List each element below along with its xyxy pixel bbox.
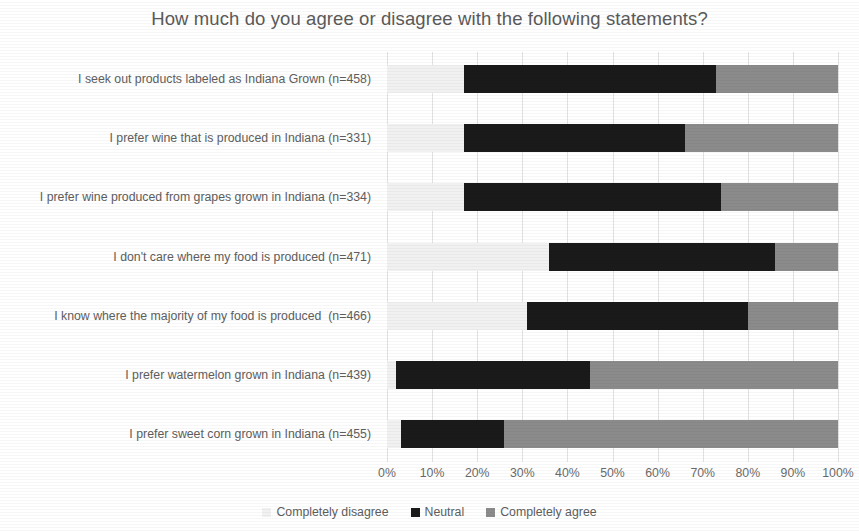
legend-item[interactable]: Neutral xyxy=(411,505,465,519)
bar-segment[interactable] xyxy=(721,183,838,211)
bar-row[interactable] xyxy=(387,361,838,389)
chart-title: How much do you agree or disagree with t… xyxy=(0,8,859,30)
bar-segment[interactable] xyxy=(590,361,838,389)
bar-segment[interactable] xyxy=(387,420,401,448)
bar-row[interactable] xyxy=(387,183,838,211)
bar-segment[interactable] xyxy=(387,124,464,152)
legend-swatch-icon xyxy=(486,508,495,517)
bar-segment[interactable] xyxy=(464,183,721,211)
bar-row[interactable] xyxy=(387,65,838,93)
category-label: I don't care where my food is produced (… xyxy=(113,249,371,265)
bar-segment[interactable] xyxy=(396,361,590,389)
x-axis-ticks: 0%10%20%30%40%50%60%70%80%90%100% xyxy=(387,466,838,486)
bar-segment[interactable] xyxy=(401,420,505,448)
category-label: I prefer watermelon grown in Indiana (n=… xyxy=(125,367,371,383)
bar-row[interactable] xyxy=(387,124,838,152)
category-label: I prefer sweet corn grown in Indiana (n=… xyxy=(129,426,371,442)
bar-segment[interactable] xyxy=(464,124,685,152)
stacked-bar-chart: How much do you agree or disagree with t… xyxy=(0,0,859,531)
bar-segment[interactable] xyxy=(387,302,527,330)
legend-item[interactable]: Completely disagree xyxy=(262,505,388,519)
bar-row[interactable] xyxy=(387,243,838,271)
category-label: I prefer wine produced from grapes grown… xyxy=(40,189,371,205)
plot-area xyxy=(387,52,838,462)
category-label: I seek out products labeled as Indiana G… xyxy=(78,71,371,87)
legend-swatch-icon xyxy=(411,508,420,517)
bar-segment[interactable] xyxy=(504,420,838,448)
category-label: I know where the majority of my food is … xyxy=(54,308,371,324)
bar-segment[interactable] xyxy=(748,302,838,330)
bar-row[interactable] xyxy=(387,302,838,330)
gridline xyxy=(838,52,839,462)
legend-label: Neutral xyxy=(425,505,465,519)
category-axis-labels: I seek out products labeled as Indiana G… xyxy=(0,52,379,462)
legend-label: Completely disagree xyxy=(276,505,388,519)
bar-segment[interactable] xyxy=(387,65,464,93)
legend-swatch-icon xyxy=(262,508,271,517)
bar-segment[interactable] xyxy=(685,124,838,152)
legend-label: Completely agree xyxy=(500,505,596,519)
bar-segment[interactable] xyxy=(387,361,396,389)
bar-segment[interactable] xyxy=(387,183,464,211)
x-tick-label: 100% xyxy=(808,466,859,480)
bar-row[interactable] xyxy=(387,420,838,448)
bar-segment[interactable] xyxy=(527,302,748,330)
bar-segment[interactable] xyxy=(716,65,838,93)
bar-segment[interactable] xyxy=(464,65,717,93)
category-label: I prefer wine that is produced in Indian… xyxy=(110,130,371,146)
bar-segment[interactable] xyxy=(549,243,775,271)
bar-segment[interactable] xyxy=(775,243,838,271)
legend-item[interactable]: Completely agree xyxy=(486,505,596,519)
bar-segment[interactable] xyxy=(387,243,549,271)
chart-legend: Completely disagreeNeutralCompletely agr… xyxy=(0,505,859,519)
